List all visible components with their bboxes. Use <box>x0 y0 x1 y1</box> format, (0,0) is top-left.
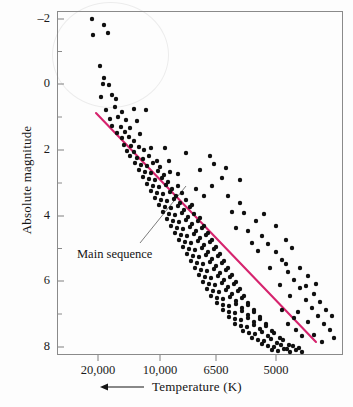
hr-diagram-figure: –202468 20,00010,00065005000 Absolute ma… <box>0 0 353 407</box>
y-tick-label: –2 <box>24 11 50 26</box>
x-tick-label: 10,000 <box>130 363 190 378</box>
x-axis-ticks <box>98 355 276 361</box>
x-tick-label: 6500 <box>186 363 246 378</box>
x-tick-label: 20,000 <box>68 363 128 378</box>
x-tick-label: 5000 <box>246 363 306 378</box>
y-tick-label: 0 <box>24 76 50 91</box>
x-axis-title-group: Temperature (K) <box>100 379 242 395</box>
left-arrow-icon <box>100 381 146 393</box>
y-tick-label: 8 <box>24 339 50 354</box>
main-sequence-annotation: Main sequence <box>77 247 152 262</box>
y-tick-label: 6 <box>24 273 50 288</box>
x-axis-title: Temperature (K) <box>152 379 242 395</box>
plot-frame <box>57 11 343 355</box>
y-axis-title: Absolute magnitude <box>19 100 35 260</box>
